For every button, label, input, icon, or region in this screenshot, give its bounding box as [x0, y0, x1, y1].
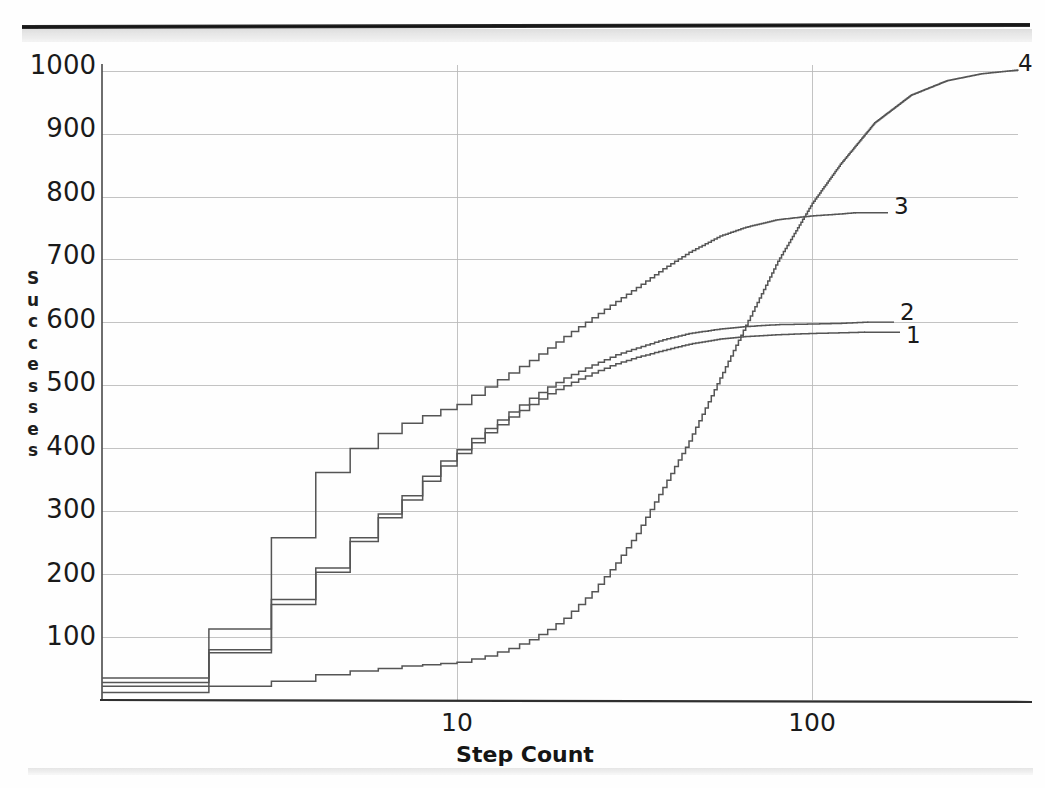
- y-axis-label-letter: c: [22, 311, 44, 333]
- y-tick-900: 900: [18, 113, 96, 143]
- y-tick-700: 700: [18, 240, 96, 270]
- y-tick-100: 100: [18, 621, 96, 651]
- y-tick-300: 300: [18, 494, 96, 524]
- y-tick-1000: 1000: [18, 50, 96, 80]
- x-tick-100: 100: [772, 708, 852, 737]
- series-curves: [102, 70, 1018, 692]
- series-label-1: 1: [906, 322, 921, 348]
- y-axis-label-letter: e: [22, 419, 44, 441]
- scanned-page: 1000 900 800 700 600 500 400 300 200 100…: [0, 0, 1045, 788]
- y-axis-label-letter: c: [22, 333, 44, 355]
- series-label-4: 4: [1018, 50, 1033, 76]
- chart-canvas: [0, 0, 1045, 788]
- line-chart: 1000 900 800 700 600 500 400 300 200 100…: [0, 0, 1045, 788]
- series-label-3: 3: [894, 193, 909, 219]
- y-tick-200: 200: [18, 558, 96, 588]
- y-axis-label-letter: s: [22, 376, 44, 398]
- label-leader-lines: [855, 213, 900, 332]
- x-axis-label: Step Count: [425, 742, 625, 767]
- y-tick-800: 800: [18, 177, 96, 207]
- y-axis-label-letter: u: [22, 290, 44, 312]
- series-label-2: 2: [900, 299, 915, 325]
- y-axis-label-letter: s: [22, 397, 44, 419]
- y-axis-label: S u c c e s s e s: [22, 268, 44, 462]
- x-tick-10: 10: [417, 708, 497, 737]
- y-axis-label-letter: e: [22, 354, 44, 376]
- axis-lines: [100, 64, 1032, 702]
- y-axis-label-letter: s: [22, 440, 44, 462]
- y-axis-label-letter: S: [22, 268, 44, 290]
